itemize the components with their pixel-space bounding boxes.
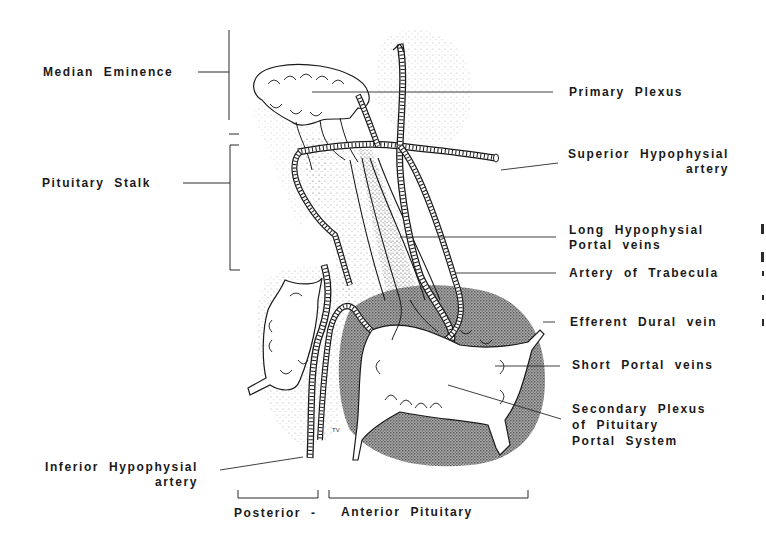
- label-anterior-pituitary: Anterior Pituitary: [341, 505, 473, 520]
- label-line: Secondary Plexus: [572, 401, 706, 417]
- edge-mark: [762, 271, 764, 276]
- label-line: Portal System: [572, 433, 706, 449]
- label-primary-plexus: Primary Plexus: [569, 85, 683, 100]
- edge-mark: [762, 295, 764, 300]
- label-line: Inferior Hypophysial: [45, 460, 198, 475]
- label-superior-hypophysial-artery: Superior Hypophysial artery: [568, 147, 729, 177]
- artist-mark: TV: [332, 427, 340, 433]
- label-line: artery: [45, 475, 198, 490]
- edge-mark: [761, 252, 764, 262]
- label-inferior-hypophysial-artery: Inferior Hypophysial artery: [45, 460, 198, 490]
- label-line: artery: [568, 162, 729, 177]
- leader-inferior-hypophysial-artery: [220, 457, 303, 470]
- anterior-bracket: [329, 490, 528, 498]
- label-pituitary-stalk: Pituitary Stalk: [42, 176, 151, 191]
- pituitary-stalk-bracket: [183, 145, 240, 270]
- label-efferent-dural-vein: Efferent Dural vein: [570, 315, 717, 330]
- label-long-hypophysial-portal-veins: Long Hypophysial Portal veins: [569, 223, 704, 253]
- label-line: Portal veins: [569, 238, 704, 253]
- label-posterior: Posterior -: [234, 506, 317, 521]
- leader-superior-hypophysial-artery: [501, 163, 558, 170]
- label-median-eminence: Median Eminence: [43, 65, 173, 80]
- label-line: of Pituitary: [572, 417, 706, 433]
- edge-mark: [762, 319, 764, 326]
- label-artery-of-trabecula: Artery of Trabecula: [569, 266, 719, 281]
- posterior-bracket: [238, 490, 318, 498]
- edge-mark: [761, 224, 764, 234]
- label-line: Superior Hypophysial: [568, 147, 729, 162]
- label-short-portal-veins: Short Portal veins: [572, 358, 714, 373]
- median-eminence-bracket: [198, 30, 239, 134]
- label-secondary-plexus: Secondary Plexus of Pituitary Portal Sys…: [572, 401, 706, 449]
- label-line: Long Hypophysial: [569, 223, 704, 238]
